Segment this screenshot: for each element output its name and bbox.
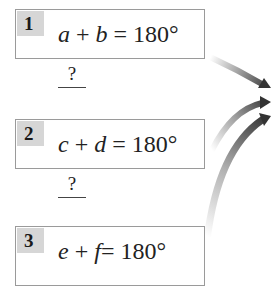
plus-sign: + [75, 131, 89, 157]
step-1-equation: a + b = 180° [58, 21, 179, 48]
var-c: c [58, 131, 69, 157]
var-e: e [58, 238, 69, 264]
step-1-box: 1 a + b = 180° [15, 9, 205, 59]
arrow-3-icon [207, 113, 271, 240]
arrow-1-icon [212, 58, 271, 88]
step-3-box: 3 e + f= 180° [15, 226, 205, 286]
plus-sign: + [75, 238, 89, 264]
value: 180° [120, 238, 166, 264]
step-2-number: 2 [17, 121, 44, 146]
var-f: f [94, 238, 101, 264]
value: 180° [132, 131, 178, 157]
plus-sign: + [76, 21, 90, 47]
equals-sign: = [114, 21, 128, 47]
step-3-equation: e + f= 180° [58, 238, 166, 265]
equals-sign: = [112, 131, 126, 157]
reason-2-blank: ? [58, 173, 86, 198]
value: 180° [133, 21, 179, 47]
step-2-equation: c + d = 180° [58, 131, 177, 158]
step-2-box: 2 c + d = 180° [15, 119, 205, 169]
equals-sign: = [101, 238, 115, 264]
var-a: a [58, 21, 70, 47]
step-3-number: 3 [17, 228, 44, 253]
step-1-number: 1 [17, 11, 44, 36]
var-b: b [96, 21, 108, 47]
var-d: d [94, 131, 106, 157]
reason-1-blank: ? [58, 63, 86, 88]
